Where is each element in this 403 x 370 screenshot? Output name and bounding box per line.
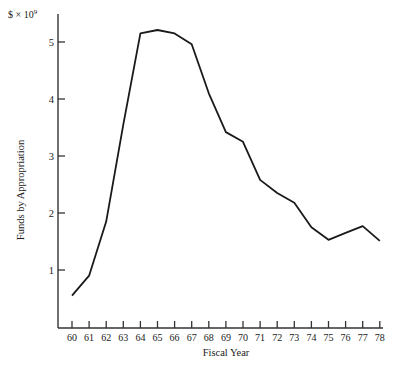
x-axis-label: Fiscal Year [203,347,250,358]
x-tick-label: 64 [135,332,145,343]
x-axis-ticks [72,321,380,328]
y-axis-ticks [58,42,65,270]
x-tick-label: 68 [204,332,214,343]
x-tick-label: 74 [306,332,316,343]
y-tick-label: 3 [49,151,54,162]
x-tick-label: 66 [170,332,180,343]
y-tick-label: 5 [49,37,54,48]
y-axis-label: Funds by Appropriation [15,140,26,240]
x-tick-label: 61 [84,332,94,343]
x-tick-label: 75 [324,332,334,343]
y-unit-label: $ × 109 [8,8,37,20]
x-tick-label: 69 [221,332,231,343]
chart-plot-area [0,0,403,370]
x-tick-label: 78 [375,332,385,343]
x-tick-label: 76 [341,332,351,343]
x-tick-label: 70 [238,332,248,343]
x-tick-label: 60 [67,332,77,343]
x-tick-label: 72 [272,332,282,343]
y-tick-label: 4 [49,94,54,105]
x-tick-label: 73 [289,332,299,343]
x-tick-label: 62 [101,332,111,343]
x-tick-label: 67 [187,332,197,343]
x-tick-label: 63 [118,332,128,343]
funds-line-series [72,30,380,296]
y-tick-label: 1 [49,265,54,276]
x-tick-label: 65 [153,332,163,343]
x-tick-label: 77 [358,332,368,343]
x-tick-label: 71 [255,332,265,343]
y-tick-label: 2 [49,208,54,219]
